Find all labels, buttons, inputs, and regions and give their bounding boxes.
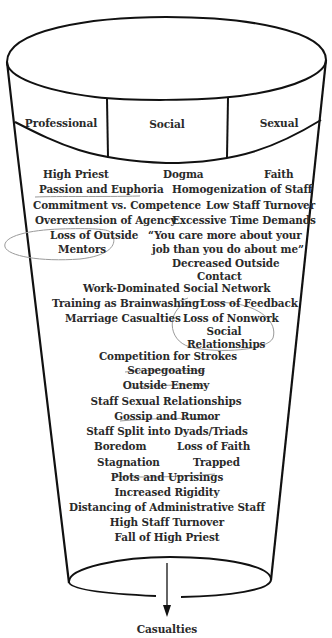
stage-quote-line1: “You care more about your — [148, 229, 302, 242]
column-header-sexual: Sexual — [260, 117, 299, 130]
stage-staff-sexual: Staff Sexual Relationships — [91, 395, 242, 408]
stage-loss-outside-mentors-line1: Loss of Outside — [50, 229, 138, 242]
stage-rigidity: Increased Rigidity — [115, 486, 220, 499]
stage-gossip: Gossip and Rumor — [114, 410, 220, 423]
stage-high-priest: High Priest — [43, 168, 109, 181]
underline-passion — [35, 196, 140, 197]
column-header-social: Social — [149, 118, 184, 131]
stage-competition: Competition for Strokes — [99, 350, 237, 363]
stage-trapped: Trapped — [193, 456, 240, 469]
stage-commitment-competence: Commitment vs. Competence — [33, 199, 201, 212]
stage-high-turnover: High Staff Turnover — [110, 516, 224, 529]
stage-loss-feedback: Loss of Feedback — [200, 297, 298, 310]
stage-low-turnover: Low Staff Turnover — [206, 199, 315, 212]
stage-dogma: Dogma — [163, 168, 203, 181]
stage-excessive-time: Excessive Time Demands — [172, 214, 316, 227]
stage-faith: Faith — [264, 168, 293, 181]
stage-scapegoating: Scapegoating — [127, 364, 205, 377]
category-divider-2 — [227, 98, 228, 157]
funnel-left-wall — [7, 62, 69, 583]
stage-passion-euphoria: Passion and Euphoria — [39, 183, 164, 196]
outcome-arrow-head-icon — [163, 605, 171, 617]
stage-stagnation: Stagnation — [97, 456, 160, 469]
column-header-professional: Professional — [25, 117, 97, 130]
stage-plots: Plots and Uprisings — [111, 471, 223, 484]
stage-decreased-contact-line1: Decreased Outside — [172, 257, 280, 270]
stage-marriage: Marriage Casualties — [65, 312, 181, 325]
funnel-bottom-rim — [69, 557, 271, 597]
stage-distancing: Distancing of Administrative Staff — [69, 501, 265, 514]
stage-work-network: Work-Dominated Social Network — [83, 282, 270, 295]
stage-loss-faith: Loss of Faith — [177, 440, 250, 453]
funnel-right-wall — [271, 60, 326, 580]
category-divider-1 — [107, 99, 108, 157]
outcome-casualties: Casualties — [137, 623, 197, 636]
stage-outside-enemy: Outside Enemy — [123, 379, 210, 392]
stage-loss-nonwork-line1: Loss of Nonwork — [183, 312, 279, 325]
funnel-diagram: Professional Social Sexual High Priest D… — [0, 0, 332, 638]
stage-loss-outside-mentors-line2: Mentors — [58, 243, 106, 256]
stage-loss-nonwork-line2: Social — [207, 325, 242, 338]
stage-dyads: Staff Split into Dyads/Triads — [86, 425, 248, 438]
stage-training: Training as Brainwashing — [52, 297, 199, 310]
stage-homogenization: Homogenization of Staff — [172, 183, 312, 196]
funnel-top-rim — [7, 17, 326, 100]
stage-fall-priest: Fall of High Priest — [115, 531, 220, 544]
stage-overextension: Overextension of Agency — [35, 214, 176, 227]
stage-quote-line2: job than you do about me” — [152, 243, 304, 256]
stage-boredom: Boredom — [94, 440, 146, 453]
